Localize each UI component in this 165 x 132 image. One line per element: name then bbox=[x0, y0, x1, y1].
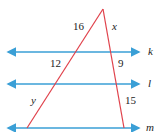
label-line-k: k bbox=[148, 45, 154, 57]
label-right-bottom: 15 bbox=[125, 94, 137, 106]
label-left-top: 16 bbox=[73, 20, 85, 32]
label-line-m: m bbox=[146, 121, 154, 132]
left-transversal bbox=[27, 9, 103, 128]
label-right-middle: 9 bbox=[118, 57, 124, 69]
label-right-top: x bbox=[111, 20, 117, 32]
label-left-middle: 12 bbox=[50, 57, 61, 69]
label-line-l: l bbox=[148, 77, 151, 89]
label-left-bottom: y bbox=[30, 94, 36, 106]
parallel-lines-proportion-diagram: 16 12 y x 9 15 k l m bbox=[0, 0, 165, 132]
